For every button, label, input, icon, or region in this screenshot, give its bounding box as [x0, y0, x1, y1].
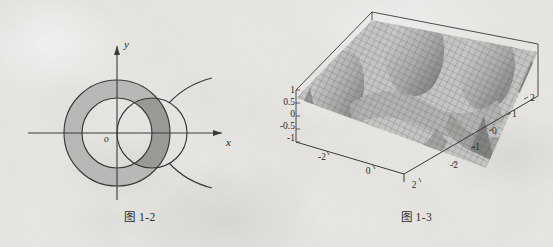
- z-tick-4: -1: [287, 133, 295, 143]
- y-tick-4: -2: [450, 160, 458, 170]
- polar-region-diagram: x y o: [0, 0, 280, 200]
- z-tick-3: -0.5: [280, 121, 295, 131]
- z-axis-ticks: 1 0.5 0 -0.5 -1: [280, 85, 295, 143]
- figure-1-3: 1 0.5 0 -0.5 -1 -2 0 2: [280, 0, 553, 247]
- y-tick-1: 1: [512, 109, 517, 119]
- z-tick-0: 1: [290, 85, 295, 95]
- x-axis-label: x: [225, 136, 231, 148]
- page-root: x y o 图 1-2: [0, 0, 553, 247]
- y-tick-2: 0: [492, 126, 497, 136]
- figure-1-2: x y o 图 1-2: [0, 0, 280, 247]
- z-tick-2: 0: [290, 109, 295, 119]
- x-axis-ticks: -2 0 2: [318, 152, 417, 190]
- surface-3d-mesh-plot: 1 0.5 0 -0.5 -1 -2 0 2: [280, 0, 553, 205]
- x-tick-0: -2: [318, 152, 326, 162]
- y-tick-0: 2: [530, 93, 535, 103]
- x-tick-1: 0: [366, 166, 371, 176]
- y-axis-label: y: [123, 38, 129, 50]
- z-tick-1: 0.5: [283, 97, 295, 107]
- origin-label: o: [104, 134, 109, 144]
- figure-1-3-caption: 图 1-3: [280, 208, 553, 224]
- x-tick-2: 2: [412, 180, 417, 190]
- figure-1-2-caption: 图 1-2: [0, 208, 280, 224]
- mesh-surface: [280, 0, 553, 205]
